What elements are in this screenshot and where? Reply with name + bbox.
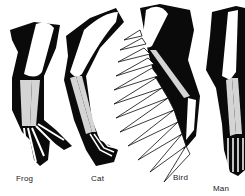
limbs-illustration bbox=[0, 0, 245, 196]
man-label: Man bbox=[213, 184, 229, 193]
man-limb bbox=[206, 6, 245, 176]
cat-label: Cat bbox=[91, 174, 104, 183]
homologous-limbs-diagram: Frog Cat Bird Man bbox=[0, 0, 245, 196]
bird-limb bbox=[114, 4, 200, 182]
frog-label: Frog bbox=[16, 174, 33, 183]
frog-limb bbox=[10, 22, 72, 166]
cat-limb bbox=[64, 8, 124, 166]
bird-label: Bird bbox=[173, 173, 188, 182]
